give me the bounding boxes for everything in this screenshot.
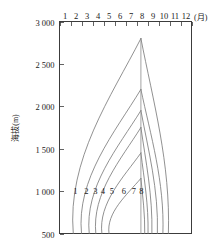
x-tick-label: 6 <box>118 11 122 21</box>
band-label-7: 7 <box>132 186 136 196</box>
band-label-4: 4 <box>101 186 106 196</box>
y-tick-label: 1 000 <box>35 187 54 197</box>
band-label-6: 6 <box>122 186 126 196</box>
band-label-3: 3 <box>93 186 97 196</box>
chart-background <box>0 0 220 251</box>
band-label-8: 8 <box>139 186 143 196</box>
y-tick-label: 500 <box>42 230 55 240</box>
band-label-1: 1 <box>73 186 77 196</box>
x-tick-label: 12 <box>182 11 191 21</box>
y-axis-title: 海拔(m) <box>10 114 20 142</box>
x-tick-label: 8 <box>140 11 144 21</box>
y-tick-label: 3 000 <box>35 18 54 28</box>
x-axis-unit-label: (月) <box>194 13 208 22</box>
x-tick-label: 7 <box>129 11 133 21</box>
band-label-5: 5 <box>110 186 114 196</box>
y-tick-label: 2 500 <box>35 60 54 70</box>
x-tick-label: 1 <box>63 11 67 21</box>
x-tick-label: 10 <box>160 11 169 21</box>
y-tick-label: 1 500 <box>35 145 54 155</box>
x-tick-label: 3 <box>85 11 89 21</box>
x-tick-label: 9 <box>151 11 155 21</box>
x-tick-label: 5 <box>107 11 111 21</box>
y-tick-label: 2 000 <box>35 102 54 112</box>
band-label-2: 2 <box>84 186 88 196</box>
x-tick-label: 2 <box>74 11 78 21</box>
altitude-month-contour-chart: 123456789101112 3 0002 5002 0001 5001 00… <box>0 0 220 251</box>
chart-container: 123456789101112 3 0002 5002 0001 5001 00… <box>0 0 220 251</box>
x-tick-label: 11 <box>171 11 179 21</box>
